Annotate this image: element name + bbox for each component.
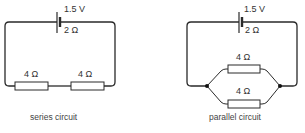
- parallel-upper-branch-left: [207, 69, 228, 86]
- series-battery-voltage: 1.5 V: [64, 5, 85, 14]
- parallel-resistor-1-label: 4 Ω: [236, 53, 250, 62]
- series-resistor-1-label: 4 Ω: [24, 70, 38, 79]
- parallel-resistor-1: [228, 65, 260, 73]
- series-resistor-2: [71, 82, 104, 90]
- junction-left: [205, 84, 209, 88]
- parallel-wire-left: [187, 22, 239, 86]
- parallel-battery-resistance: 2 Ω: [245, 26, 259, 35]
- parallel-lower-branch-right: [260, 86, 280, 104]
- junction-right: [278, 84, 282, 88]
- series-resistor-2-label: 4 Ω: [78, 70, 92, 79]
- parallel-lower-branch-left: [207, 86, 228, 104]
- parallel-resistor-2-label: 4 Ω: [236, 87, 250, 96]
- parallel-resistor-2: [228, 100, 260, 108]
- parallel-upper-branch-right: [260, 69, 280, 86]
- series-caption: series circuit: [30, 113, 77, 122]
- series-resistor-1: [15, 82, 48, 90]
- series-circuit-drawing: [5, 12, 115, 90]
- series-battery-resistance: 2 Ω: [64, 26, 78, 35]
- parallel-battery-voltage: 1.5 V: [244, 5, 265, 14]
- parallel-caption: parallel circuit: [209, 113, 261, 122]
